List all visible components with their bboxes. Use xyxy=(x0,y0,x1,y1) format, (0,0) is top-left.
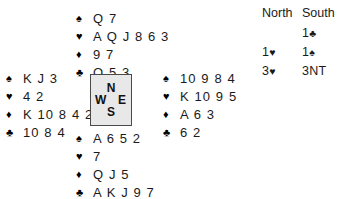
spade-icon: ♠ xyxy=(76,133,88,144)
spade-icon: ♠ xyxy=(6,73,18,84)
bid-suit-icon: ♥ xyxy=(269,46,276,58)
east-spades: 10 9 8 4 xyxy=(180,72,237,85)
hand-south: ♠ A 6 5 2 ♥ 7 ♦ Q J 5 ♣ A K J 9 7 xyxy=(76,129,155,198)
east-clubs: 6 2 xyxy=(180,126,237,139)
south-spades: A 6 5 2 xyxy=(93,132,155,145)
auction-row: 1♥1♠ xyxy=(262,45,348,64)
east-diamonds: A 6 3 xyxy=(180,108,237,121)
auction-row: 1♣ xyxy=(262,26,348,45)
club-icon: ♣ xyxy=(163,127,175,138)
auction-row: 3♥3NT xyxy=(262,64,348,83)
spade-icon: ♠ xyxy=(76,13,88,24)
north-diamonds: 9 7 xyxy=(93,48,169,61)
compass-south-label: S xyxy=(91,106,131,118)
auction-bid-south: 3NT xyxy=(302,64,348,83)
diamond-icon: ♦ xyxy=(6,109,18,120)
heart-icon: ♥ xyxy=(76,31,88,42)
auction-header-north: North xyxy=(262,6,302,26)
bid-suit-icon: ♠ xyxy=(309,46,315,58)
west-diamonds: K 10 8 4 2 xyxy=(23,108,93,121)
north-hearts: A Q J 8 6 3 xyxy=(93,30,169,43)
west-spades: K J 3 xyxy=(23,72,93,85)
south-diamonds: Q J 5 xyxy=(93,168,155,181)
compass-west-label: W xyxy=(95,94,106,106)
auction-bid-south: 1♣ xyxy=(302,26,348,45)
auction-header-row: North South xyxy=(262,6,348,26)
compass-east-label: E xyxy=(118,94,126,106)
club-icon: ♣ xyxy=(76,187,88,198)
diamond-icon: ♦ xyxy=(76,49,88,60)
auction-bid-north: 3♥ xyxy=(262,64,302,83)
heart-icon: ♥ xyxy=(76,151,88,162)
diamond-icon: ♦ xyxy=(76,169,88,180)
east-hearts: K 10 9 5 xyxy=(180,90,237,103)
auction-bid-north: 1♥ xyxy=(262,45,302,64)
auction-body: 1♣1♥1♠3♥3NT xyxy=(262,26,348,83)
heart-icon: ♥ xyxy=(163,91,175,102)
auction-table: North South 1♣1♥1♠3♥3NT xyxy=(262,6,348,83)
auction-bid-north xyxy=(262,26,302,45)
spade-icon: ♠ xyxy=(163,73,175,84)
bid-suit-icon: ♥ xyxy=(269,65,276,77)
club-icon: ♣ xyxy=(6,127,18,138)
west-hearts: 4 2 xyxy=(23,90,93,103)
south-clubs: A K J 9 7 xyxy=(93,186,155,199)
auction-header-south: South xyxy=(302,6,348,26)
compass-box: N W E S xyxy=(90,74,132,126)
diamond-icon: ♦ xyxy=(163,109,175,120)
bid-suit-icon: ♣ xyxy=(309,27,316,39)
south-hearts: 7 xyxy=(93,150,155,163)
auction-bid-south: 1♠ xyxy=(302,45,348,64)
heart-icon: ♥ xyxy=(6,91,18,102)
hand-east: ♠ 10 9 8 4 ♥ K 10 9 5 ♦ A 6 3 ♣ 6 2 xyxy=(163,69,237,141)
north-spades: Q 7 xyxy=(93,12,169,25)
